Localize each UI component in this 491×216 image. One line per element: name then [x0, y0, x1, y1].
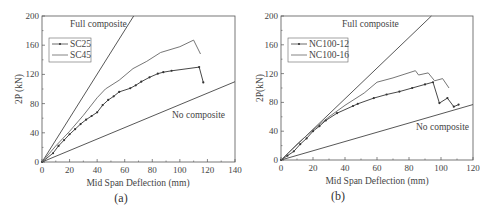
- data-point: [458, 103, 460, 105]
- data-point: [52, 152, 54, 154]
- caption-a: (a): [114, 191, 127, 205]
- data-point: [162, 71, 164, 73]
- y-tick-label: 80: [269, 97, 279, 107]
- data-point: [202, 81, 204, 83]
- data-point: [424, 83, 426, 85]
- caption-b: (b): [331, 189, 345, 203]
- y-tick-label: 200: [265, 11, 279, 21]
- y-tick-label: 160: [265, 40, 279, 50]
- legend-a: SC25 SC45: [49, 38, 91, 62]
- legend-sc45: SC45: [70, 50, 91, 60]
- no-composite-label-b: No composite: [416, 122, 469, 132]
- y-tick-label: 160: [26, 40, 40, 50]
- data-point: [113, 95, 115, 97]
- x-tick-label: 0: [279, 163, 284, 173]
- chart-a: 02040608010012014004080120160200 Full co…: [14, 11, 242, 205]
- y-tick-label: 0: [35, 157, 40, 167]
- data-point: [57, 145, 59, 147]
- y-tick-label: 120: [265, 69, 279, 79]
- data-point: [148, 76, 150, 78]
- y-tick-label: 40: [269, 126, 279, 136]
- reference-line: [42, 82, 235, 162]
- data-point: [91, 115, 93, 117]
- x-tick-label: 20: [309, 163, 319, 173]
- legend-sc25: SC25: [70, 39, 91, 49]
- x-tick-label: 80: [148, 165, 158, 175]
- x-tick-label: 120: [466, 163, 480, 173]
- x-tick-label: 80: [405, 163, 415, 173]
- data-point: [85, 119, 87, 121]
- ticks-b: 02040608010012004080120160200: [265, 11, 481, 173]
- data-point: [170, 70, 172, 72]
- x-tick-label: 100: [434, 163, 448, 173]
- data-point: [74, 128, 76, 130]
- data-point: [357, 103, 359, 105]
- x-tick-label: 0: [40, 165, 45, 175]
- x-tick-label: 20: [65, 165, 75, 175]
- x-tick-label: 60: [373, 163, 383, 173]
- legend-nc100-12: NC100-12: [309, 39, 349, 49]
- data-point: [386, 93, 388, 95]
- figure: 02040608010012014004080120160200 Full co…: [0, 0, 491, 216]
- y-tick-label: 40: [30, 128, 40, 138]
- x-tick-label: 120: [201, 165, 215, 175]
- chart-b: 02040608010012004080120160200 Full compo…: [255, 11, 480, 203]
- full-composite-label-a: Full composite: [70, 19, 127, 29]
- data-point: [373, 97, 375, 99]
- data-point: [102, 104, 104, 106]
- legend-nc100-16: NC100-16: [309, 50, 349, 60]
- data-point: [336, 112, 338, 114]
- data-point: [198, 66, 200, 68]
- data-point: [306, 137, 308, 139]
- data-point: [129, 87, 131, 89]
- data-point: [80, 123, 82, 125]
- x-tick-label: 40: [93, 165, 103, 175]
- x-tick-label: 40: [341, 163, 351, 173]
- data-point: [157, 73, 159, 75]
- y-axis-title-a: 2P (kN): [14, 74, 25, 104]
- y-tick-label: 0: [274, 155, 279, 165]
- x-axis-title-a: Mid Span Deflection (mm): [86, 178, 189, 189]
- x-tick-label: 140: [228, 165, 242, 175]
- plot-frame-b: [281, 16, 473, 160]
- y-tick-label: 80: [30, 99, 40, 109]
- y-tick-label: 120: [26, 69, 40, 79]
- data-point: [135, 84, 137, 86]
- data-point: [293, 150, 295, 152]
- series-line: [281, 71, 449, 160]
- x-axis-title-b: Mid Span Deflection (mm): [325, 176, 428, 187]
- data-point: [411, 87, 413, 89]
- x-tick-label: 100: [173, 165, 187, 175]
- full-composite-label-b: Full composite: [342, 19, 399, 29]
- data-point: [63, 139, 65, 141]
- data-point: [398, 91, 400, 93]
- x-tick-label: 60: [120, 165, 130, 175]
- data-point: [96, 111, 98, 113]
- no-composite-label-a: No composite: [172, 110, 225, 120]
- data-point: [107, 99, 109, 101]
- legend-b: NC100-12 NC100-16: [288, 38, 349, 62]
- y-axis-title-b: 2P(kN): [255, 74, 266, 102]
- data-point: [453, 106, 455, 108]
- data-point: [352, 105, 354, 107]
- data-point: [299, 143, 301, 145]
- ticks-a: 02040608010012014004080120160200: [26, 11, 243, 175]
- data-point: [438, 102, 440, 104]
- data-point: [68, 133, 70, 135]
- data-point: [432, 81, 434, 83]
- y-tick-label: 200: [26, 11, 40, 21]
- data-point: [140, 81, 142, 83]
- data-point: [446, 97, 448, 99]
- data-point: [118, 91, 120, 93]
